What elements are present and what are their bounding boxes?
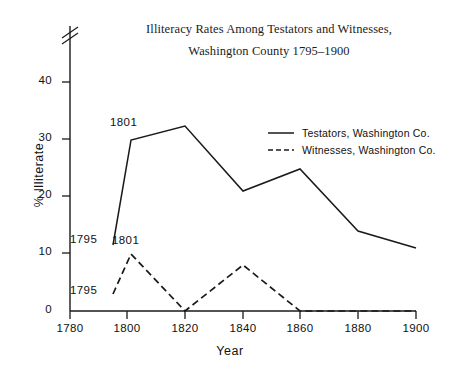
annotation-witnesses-1795: 1795 bbox=[70, 284, 97, 296]
annotation-witnesses-1801: 1801 bbox=[112, 234, 139, 246]
legend-swatch-solid-icon bbox=[268, 128, 294, 138]
chart-title-line-2: Washington County 1795–1900 bbox=[96, 40, 442, 62]
x-tick-label-1880: 1880 bbox=[332, 322, 384, 334]
series-line-witnesses bbox=[113, 254, 416, 311]
legend-item-witnesses: Witnesses, Washington Co. bbox=[268, 141, 436, 158]
chart-figure: Illiteracy Rates Among Testators and Wit… bbox=[0, 0, 460, 372]
legend-swatch-dashed-icon bbox=[268, 145, 294, 155]
x-axis-title: Year bbox=[180, 344, 280, 358]
x-tick-label-1820: 1820 bbox=[159, 322, 211, 334]
y-tick-label-40: 40 bbox=[14, 74, 52, 86]
x-tick-label-1900: 1900 bbox=[390, 322, 442, 334]
y-tick-label-0: 0 bbox=[14, 303, 52, 315]
chart-title: Illiteracy Rates Among Testators and Wit… bbox=[96, 18, 442, 62]
y-axis-title: % Illiterate bbox=[32, 130, 46, 220]
y-axis-ticks bbox=[62, 82, 70, 253]
chart-title-line-1: Illiteracy Rates Among Testators and Wit… bbox=[96, 18, 442, 40]
legend-label-witnesses: Witnesses, Washington Co. bbox=[302, 144, 436, 156]
y-tick-label-10: 10 bbox=[14, 245, 52, 257]
x-axis-ticks bbox=[70, 311, 416, 319]
x-tick-label-1780: 1780 bbox=[44, 322, 96, 334]
x-tick-label-1840: 1840 bbox=[217, 322, 269, 334]
x-tick-label-1800: 1800 bbox=[101, 322, 153, 334]
legend-item-testators: Testators, Washington Co. bbox=[268, 124, 436, 141]
legend-label-testators: Testators, Washington Co. bbox=[302, 127, 430, 139]
annotation-testators-1795: 1795 bbox=[70, 233, 97, 245]
annotation-testators-1801: 1801 bbox=[110, 116, 137, 128]
x-tick-label-1860: 1860 bbox=[274, 322, 326, 334]
chart-legend: Testators, Washington Co. Witnesses, Was… bbox=[268, 124, 436, 158]
